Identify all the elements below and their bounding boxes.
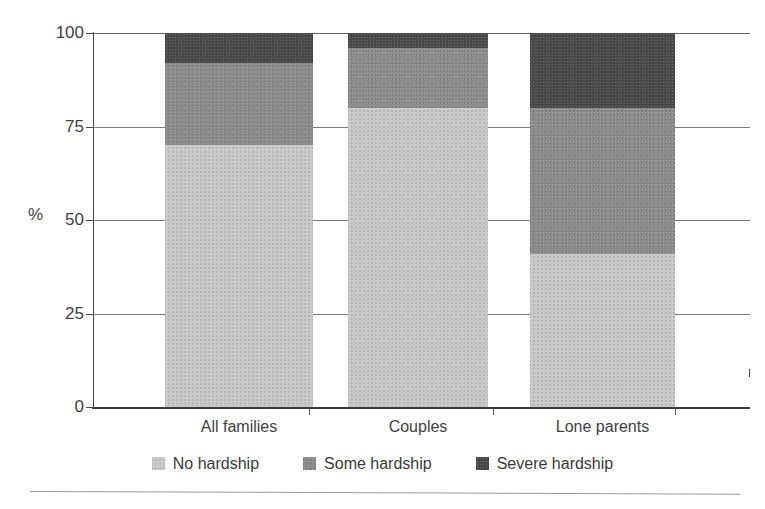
bar-segment-severe-hardship[interactable] xyxy=(348,33,488,48)
plot-area xyxy=(93,33,750,407)
legend-item-some-hardship[interactable]: Some hardship xyxy=(303,455,432,472)
x-axis-end-tick xyxy=(749,369,750,377)
footer-rule xyxy=(30,491,740,495)
bar-all-families[interactable] xyxy=(165,33,313,407)
scan-ghost-text xyxy=(0,0,765,14)
stacked-bar-chart-figure: % 0255075100 All familiesCouplesLone par… xyxy=(0,0,765,509)
legend-swatch-icon xyxy=(303,457,316,470)
x-axis-line xyxy=(92,407,750,409)
legend-swatch-icon xyxy=(476,457,489,470)
bar-couples[interactable] xyxy=(348,33,488,407)
y-tick-25 xyxy=(86,314,94,315)
y-tick-label-25: 25 xyxy=(65,305,84,322)
category-label-lone-parents: Lone parents xyxy=(556,418,649,436)
bar-lone-parents[interactable] xyxy=(530,33,675,407)
chart-legend: No hardshipSome hardshipSevere hardship xyxy=(0,455,765,472)
legend-item-label: Some hardship xyxy=(324,455,432,472)
y-tick-label-50: 50 xyxy=(65,211,84,228)
y-tick-100 xyxy=(86,33,94,34)
legend-swatch-icon xyxy=(152,457,165,470)
bar-segment-no-hardship[interactable] xyxy=(530,254,675,407)
y-tick-label-100: 100 xyxy=(56,24,84,41)
y-tick-75 xyxy=(86,127,94,128)
bar-segment-severe-hardship[interactable] xyxy=(530,33,675,108)
bar-segment-some-hardship[interactable] xyxy=(530,108,675,254)
legend-item-no-hardship[interactable]: No hardship xyxy=(152,455,259,472)
legend-item-severe-hardship[interactable]: Severe hardship xyxy=(476,455,614,472)
legend-item-label: Severe hardship xyxy=(497,455,614,472)
y-tick-50 xyxy=(86,220,94,221)
bar-segment-severe-hardship[interactable] xyxy=(165,33,313,63)
y-tick-label-75: 75 xyxy=(65,118,84,135)
bar-segment-some-hardship[interactable] xyxy=(348,48,488,108)
bar-segment-no-hardship[interactable] xyxy=(165,145,313,407)
bar-segment-no-hardship[interactable] xyxy=(348,108,488,407)
category-label-all-families: All families xyxy=(201,418,277,436)
legend-item-label: No hardship xyxy=(173,455,259,472)
y-axis-unit-label: % xyxy=(28,206,43,223)
bar-segment-some-hardship[interactable] xyxy=(165,63,313,145)
y-tick-label-0: 0 xyxy=(75,398,84,415)
category-label-couples: Couples xyxy=(389,418,448,436)
